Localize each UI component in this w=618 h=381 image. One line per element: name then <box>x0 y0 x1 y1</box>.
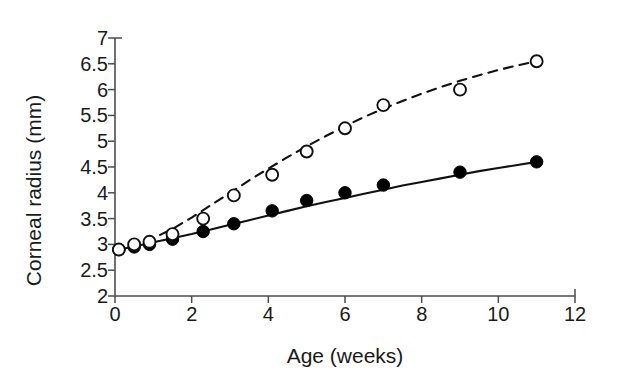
data-point-filled <box>377 179 389 191</box>
data-point-open <box>531 55 543 67</box>
data-point-filled <box>530 156 542 168</box>
data-point-filled <box>197 225 209 237</box>
dashed-fit-curve <box>115 61 537 251</box>
axis-lines <box>108 38 575 303</box>
data-point-open <box>301 146 313 158</box>
plot-area <box>0 0 618 381</box>
data-point-open <box>128 238 140 250</box>
data-point-open <box>228 189 240 201</box>
data-point-open <box>197 213 209 225</box>
data-point-open <box>266 169 278 181</box>
data-point-filled <box>300 194 312 206</box>
data-point-open <box>144 236 156 248</box>
data-point-filled <box>228 218 240 230</box>
fit-curves <box>115 61 537 251</box>
data-point-open <box>339 122 351 134</box>
data-point-open <box>167 228 179 240</box>
data-point-filled <box>454 166 466 178</box>
chart-figure: Corneal radius (mm) 2 2.5 3 3.5 4 4.5 5 … <box>0 0 618 381</box>
data-point-open <box>377 99 389 111</box>
data-point-open <box>454 84 466 96</box>
data-point-filled <box>266 205 278 217</box>
data-point-filled <box>339 187 351 199</box>
data-point-open <box>113 244 125 256</box>
